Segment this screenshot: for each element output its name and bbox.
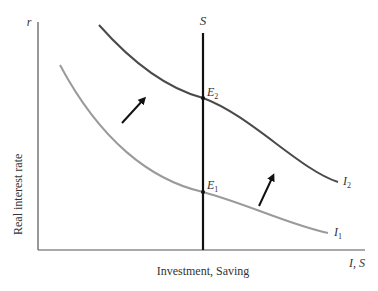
equilibrium-label-e2: E2 (206, 85, 218, 101)
equilibrium-point-e2 (201, 96, 205, 100)
saving-line-label: S (200, 13, 207, 28)
curve-label-i2: I2 (342, 174, 351, 190)
equilibrium-label-e1: E1 (206, 178, 218, 194)
equilibrium-point-e1 (201, 190, 205, 194)
y-axis-end-label: r (27, 15, 32, 29)
y-axis-title: Real interest rate (11, 154, 25, 235)
x-axis-title: Investment, Saving (157, 264, 250, 278)
shift-arrow-lower (259, 176, 273, 206)
investment-curve-i1 (60, 65, 328, 233)
shift-arrow-upper (122, 99, 144, 123)
curve-label-i1: I1 (333, 225, 342, 241)
x-axis-end-label: I, S (348, 256, 365, 270)
investment-saving-chart: r S Real interest rate Investment, Savin… (0, 0, 378, 291)
